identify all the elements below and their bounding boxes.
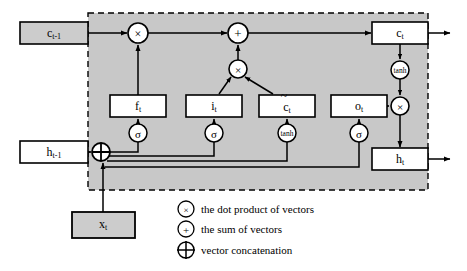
legend-item-sum: + the sum of vectors (178, 221, 282, 237)
legend-item-concatenation: vector concatenation (177, 241, 293, 259)
c-t-box[interactable]: ct (372, 22, 428, 44)
vector-concatenation-node[interactable] (92, 143, 110, 161)
sigmoid-node-output-glyph: σ (356, 128, 362, 140)
legend-label-concatenation: vector concatenation (201, 244, 293, 256)
dot-product-icon-glyph: × (183, 205, 188, 215)
sigmoid-node-output[interactable]: σ (350, 124, 368, 142)
sigmoid-node-input[interactable]: σ (205, 124, 223, 142)
multiply-node-input[interactable]: × (229, 60, 247, 78)
multiply-node-input-glyph: × (235, 64, 241, 76)
sigmoid-node-input-glyph: σ (211, 128, 217, 140)
legend-label-sum: the sum of vectors (201, 223, 282, 235)
tanh-node-candidate-glyph: tanh (281, 129, 294, 138)
legend-label-dot-product: the dot product of vectors (201, 203, 314, 215)
sum-icon-glyph: + (183, 224, 189, 236)
multiply-node-forget[interactable]: × (128, 23, 148, 43)
sigmoid-node-forget[interactable]: σ (129, 124, 147, 142)
output-arrows (428, 33, 450, 159)
x-t-box[interactable]: xt (72, 212, 135, 238)
output-gate-box[interactable]: ot (331, 95, 387, 117)
input-gate-box[interactable]: it (186, 95, 242, 117)
multiply-node-forget-glyph: × (135, 27, 142, 41)
c-prev-box[interactable]: ct-1 (20, 22, 88, 44)
forget-gate-box[interactable]: ft (110, 95, 166, 117)
multiply-node-output-glyph: × (397, 101, 403, 113)
h-prev-sub: t-1 (53, 151, 62, 160)
legend: × the dot product of vectors + the sum o… (177, 201, 314, 259)
c-prev-sub: t-1 (52, 32, 61, 41)
figure-canvas: ct-1 ht-1 xt ft (0, 0, 467, 271)
add-node-glyph: + (234, 26, 241, 41)
h-t-box[interactable]: ht (372, 148, 428, 170)
h-prev-box[interactable]: ht-1 (20, 141, 88, 163)
legend-item-dot-product: × the dot product of vectors (178, 201, 314, 217)
tanh-node-cell-state[interactable]: tanh (391, 61, 409, 79)
sigmoid-node-forget-glyph: σ (135, 128, 141, 140)
tanh-node-candidate[interactable]: tanh (278, 124, 296, 142)
lstm-diagram: ct-1 ht-1 xt ft (0, 0, 467, 271)
add-node-cell-state[interactable]: + (228, 23, 248, 43)
concatenation-icon-cross (177, 241, 195, 259)
tanh-node-cell-state-glyph: tanh (394, 66, 407, 75)
multiply-node-output[interactable]: × (391, 97, 409, 115)
candidate-cell-tilde: ~ (281, 89, 288, 103)
